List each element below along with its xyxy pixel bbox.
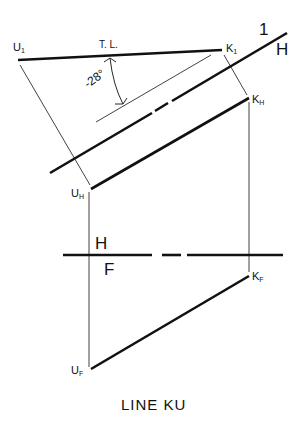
fold-label-1: 1 — [259, 21, 268, 38]
label-uh: UH — [71, 188, 84, 200]
label-uf: UF — [71, 365, 83, 377]
fold-label-h-aux: H — [276, 41, 288, 58]
label-u1: U1 — [13, 42, 25, 54]
line-uf-kf — [91, 276, 249, 369]
true-length-label: T. L. — [99, 40, 118, 50]
line-uh-kh — [91, 98, 249, 189]
fold-line-1-h-dash — [155, 103, 168, 111]
orthographic-drawing — [0, 0, 303, 421]
label-kf: KF — [252, 271, 264, 283]
fold-label-h: H — [95, 235, 107, 252]
figure-caption: LINE KU — [121, 397, 186, 412]
fold-label-f: F — [104, 261, 114, 278]
projector-k1-kh — [224, 55, 247, 95]
angle-arc — [110, 58, 123, 104]
projector-u1-uh — [20, 65, 90, 185]
line-u1-k1 — [18, 50, 222, 60]
label-kh: KH — [252, 94, 264, 106]
label-k1: K1 — [226, 43, 237, 55]
